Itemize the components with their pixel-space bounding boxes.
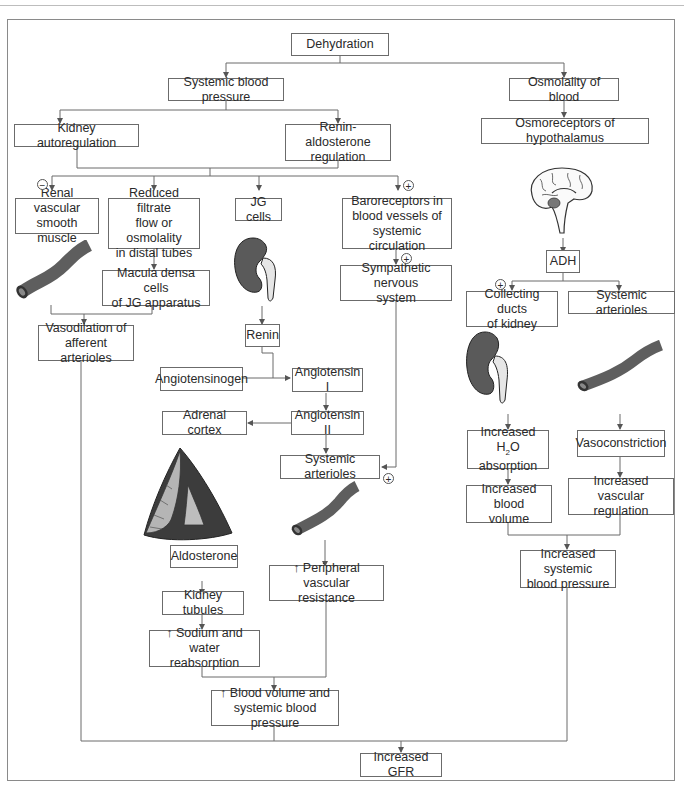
node-systemic-arterioles-middle: Systemic arterioles [280,455,380,479]
node-blood-volume-systemic-bp: ↑ Blood volume and systemic blood pressu… [211,690,339,726]
brain-icon [522,165,602,237]
node-increased-systemic-blood-pressure: Increased systemic blood pressure [520,550,616,588]
plus-sign-icon: + [401,253,412,264]
adrenal-gland-icon [140,445,235,545]
node-baroreceptors: Baroreceptors in blood vessels of system… [342,198,452,249]
node-angiotensin-i: Angiotensin I [292,368,363,392]
node-reduced-filtrate-flow: Reduced filtrate flow or osmolality in d… [108,198,200,249]
blood-vessel-icon [14,240,94,305]
node-vasodilation-afferent-arterioles: Vasodilation of afferent arterioles [38,325,134,361]
node-systemic-blood-pressure: Systemic blood pressure [168,78,284,101]
node-sodium-water-reabsorption: ↑ Sodium and water reabsorption [149,630,260,667]
minus-sign-icon: − [37,179,48,190]
plus-sign-icon: + [383,473,394,484]
node-peripheral-vascular-resistance: ↑ Peripheral vascular resistance [269,565,384,601]
node-osmolality-of-blood: Osmolality of blood [509,78,619,101]
node-increased-blood-volume: Increased blood volume [466,485,552,523]
node-renin-aldosterone-regulation: Renin-aldosterone regulation [285,124,391,161]
node-osmoreceptors-of-hypothalamus: Osmoreceptors of hypothalamus [481,118,649,144]
node-kidney-tubules: Kidney tubules [162,591,244,615]
node-increased-gfr: Increased GFR [360,753,442,777]
node-increased-vascular-regulation: Increased vascular regulation [568,478,674,515]
node-jg-cells: JG cells [235,198,282,221]
node-kidney-autoregulation: Kidney autoregulation [14,124,139,147]
node-renal-vascular-smooth-muscle: Renal vascular smooth muscle [15,198,99,234]
blood-vessel-icon [287,480,362,540]
node-collecting-ducts-of-kidney: Collecting ducts of kidney [466,291,558,327]
kidney-icon [233,236,283,306]
node-aldosterone: Aldosterone [170,545,238,568]
node-vasoconstriction: Vasoconstriction [577,430,665,457]
node-macula-densa-cells: Macula densa cells of JG apparatus [102,270,210,306]
node-angiotensin-ii: Angiotensin II [291,411,364,435]
node-dehydration: Dehydration [291,33,389,56]
blood-vessel-icon [575,340,665,395]
plus-sign-icon: + [403,180,414,191]
node-angiotensinogen: Angiotensinogen [160,367,243,391]
node-systemic-arterioles-right: Systemic arterioles [568,291,675,314]
kidney-icon [465,330,515,410]
node-adh: ADH [546,250,580,273]
node-increased-h2o-absorption: Increased H2O absorption [467,430,549,469]
node-adrenal-cortex: Adrenal cortex [162,411,247,435]
node-sympathetic-nervous-system: Sympathetic nervous system [340,265,452,301]
h2o-label-suffix: O absorption [479,440,537,474]
node-renin: Renin [245,324,280,347]
plus-sign-icon: + [495,279,506,290]
